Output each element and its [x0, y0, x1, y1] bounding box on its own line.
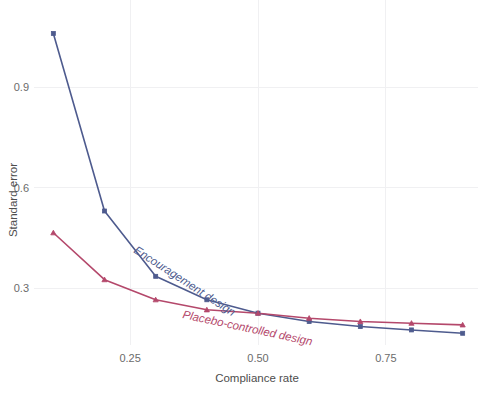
- x-tick-label-0: 0.25: [119, 352, 140, 364]
- data-point-s0-i6: [358, 325, 362, 329]
- x-axis-title: Compliance rate: [215, 372, 299, 384]
- y-tick-label-2: 0.9: [14, 81, 29, 93]
- data-point-s0-i0: [51, 31, 55, 35]
- y-axis-title: Standard error: [7, 163, 19, 237]
- data-point-s0-i8: [461, 331, 465, 335]
- chart-background: [0, 0, 487, 394]
- x-tick-label-1: 0.50: [247, 352, 268, 364]
- y-tick-label-0: 0.3: [14, 282, 29, 294]
- x-tick-label-2: 0.75: [375, 352, 396, 364]
- data-point-s0-i2: [154, 274, 158, 278]
- line-chart: 0.250.500.75 0.30.60.9 Compliance rate S…: [0, 0, 487, 394]
- chart-container: 0.250.500.75 0.30.60.9 Compliance rate S…: [0, 0, 487, 394]
- data-point-s0-i7: [409, 328, 413, 332]
- data-point-s0-i1: [103, 209, 107, 213]
